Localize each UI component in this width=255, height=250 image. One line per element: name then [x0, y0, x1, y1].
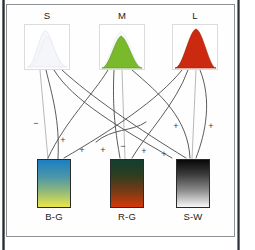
wire-s-to-rg [54, 70, 172, 158]
rg-channel-swatch [110, 159, 144, 208]
sign-plus-s-rg: + [99, 146, 107, 154]
bg-channel-swatch [37, 159, 71, 208]
sign-plus-s-sw: + [160, 150, 168, 158]
sign-plus-m-sw: + [172, 122, 180, 130]
m-cone-label: M [102, 10, 142, 21]
l-cone-plot [172, 24, 218, 70]
s-cone-label: S [32, 10, 62, 21]
wire-m-to-bg [48, 70, 108, 158]
l-cone-label: L [175, 10, 215, 21]
sw-channel-swatch [176, 159, 210, 208]
sign-plus-m-bg: + [59, 136, 67, 144]
m-cone-plot [99, 24, 145, 70]
l-cone-curve [173, 25, 217, 69]
wire-cross-arc [96, 122, 146, 142]
s-cone-plot [24, 24, 70, 70]
wire-l-to-sw [196, 70, 207, 158]
wire-s-vertical [40, 70, 48, 159]
wire-l-to-rg [132, 70, 188, 158]
s-cone-curve [25, 25, 69, 69]
wire-s-to-bg [46, 70, 58, 159]
sign-plus-l-sw: + [207, 122, 215, 130]
bg-channel-label: B-G [34, 211, 74, 222]
sign-minus-m-rg: − [119, 142, 127, 150]
sw-channel-label: S-W [173, 211, 213, 222]
rg-channel-label: R-G [107, 211, 147, 222]
sign-plus-l-bg: + [78, 146, 86, 154]
figure-stage: S M L B-G R-G S-W − + + + − + + + + [0, 0, 255, 250]
sign-plus-l-rg: + [140, 147, 148, 155]
sign-minus-s-bg: − [32, 119, 40, 127]
m-cone-curve [100, 25, 144, 69]
wire-l-vertical [192, 70, 196, 159]
